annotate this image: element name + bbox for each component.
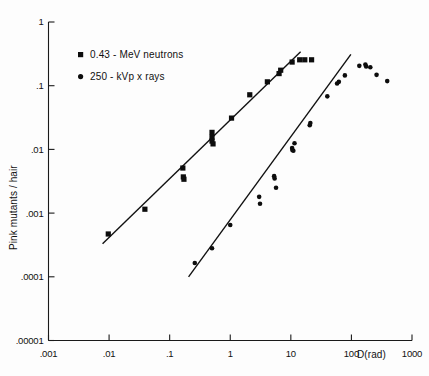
data-point-circle-14	[325, 94, 330, 99]
data-point-square-5	[209, 130, 214, 135]
data-point-square-4	[181, 177, 186, 182]
data-point-square-17	[309, 57, 314, 62]
data-point-circle-4	[258, 201, 263, 206]
data-point-square-8	[210, 141, 215, 146]
x-tick-label-6: 1000	[402, 348, 422, 359]
chart-data-points	[106, 57, 390, 265]
data-point-circle-10	[291, 149, 296, 154]
data-point-circle-21	[368, 65, 373, 70]
y-tick-label-1: .1	[36, 80, 44, 91]
legend-marker-square	[78, 52, 83, 57]
chart-figure: 1.1.01.001.0001.00001 .001.01.1110100100…	[0, 0, 429, 376]
data-point-square-2	[180, 165, 185, 170]
x-axis-ticks	[49, 335, 413, 341]
data-point-circle-16	[337, 80, 342, 85]
x-tick-label-3: 1	[228, 348, 233, 359]
data-point-circle-18	[357, 64, 362, 69]
y-tick-label-5: .00001	[16, 335, 44, 346]
data-point-square-16	[302, 57, 307, 62]
chart-canvas: 1.1.01.001.0001.00001 .001.01.1110100100…	[0, 0, 429, 376]
data-point-circle-7	[274, 185, 279, 190]
y-tick-label-0: 1	[38, 16, 43, 27]
x-tick-label-2: .1	[166, 348, 174, 359]
y-tick-label-3: .001	[26, 208, 44, 219]
data-point-circle-0	[193, 261, 198, 266]
y-axis-ticks	[49, 22, 55, 341]
x-axis-title: D(rad)	[357, 349, 386, 360]
series-1-points	[193, 62, 390, 265]
data-point-circle-13	[308, 121, 313, 126]
data-point-square-14	[290, 59, 295, 64]
y-tick-label-2: .01	[31, 144, 44, 155]
data-point-circle-1	[210, 246, 215, 251]
data-point-square-10	[247, 92, 252, 97]
chart-legend: 0.43 - MeV neutrons250 - kVp x rays	[78, 49, 183, 82]
data-point-square-13	[278, 68, 283, 73]
data-point-square-11	[265, 79, 270, 84]
data-point-square-1	[142, 207, 147, 212]
legend-marker-circle	[78, 74, 83, 79]
fit-line-series-1	[189, 54, 351, 276]
y-axis-title: Pink mutants / hair	[8, 165, 19, 250]
y-axis-tick-labels: 1.1.01.001.0001.00001	[16, 16, 44, 346]
data-point-circle-22	[374, 73, 379, 78]
data-point-circle-6	[272, 176, 277, 181]
data-point-square-0	[106, 231, 111, 236]
chart-fit-lines	[103, 52, 351, 277]
data-point-circle-20	[364, 64, 369, 69]
data-point-square-15	[297, 57, 302, 62]
data-point-circle-11	[292, 141, 297, 146]
legend-label-1: 250 - kVp x rays	[90, 71, 165, 82]
x-tick-label-1: .01	[103, 348, 116, 359]
data-point-circle-2	[228, 223, 233, 228]
data-point-square-9	[229, 116, 234, 121]
x-tick-label-4: 10	[286, 348, 296, 359]
data-point-circle-3	[257, 195, 262, 200]
data-point-circle-23	[385, 79, 390, 84]
legend-label-0: 0.43 - MeV neutrons	[90, 49, 183, 60]
y-tick-label-4: .0001	[21, 271, 44, 282]
x-tick-label-0: .001	[40, 348, 58, 359]
data-point-circle-17	[343, 73, 348, 78]
